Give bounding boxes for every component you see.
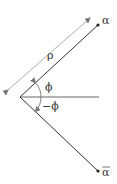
- ray-alpha-bar: [20, 97, 98, 171]
- point-alpha: [96, 23, 99, 26]
- point-alpha-bar: [96, 169, 99, 172]
- label-phi: ϕ: [45, 81, 53, 94]
- label-alpha-bar: α: [102, 166, 110, 179]
- label-neg-phi: −ϕ: [42, 100, 59, 113]
- angle-arc-neg-phi: [35, 97, 41, 112]
- polar-angle-diagram: α α ρ ϕ −ϕ: [0, 0, 117, 184]
- svg-text:α: α: [102, 166, 110, 179]
- angle-arc-phi: [36, 83, 42, 97]
- label-alpha: α: [102, 14, 110, 27]
- ray-alpha: [20, 25, 98, 97]
- label-rho: ρ: [47, 49, 53, 62]
- diagram-svg: α α ρ ϕ −ϕ: [0, 0, 117, 184]
